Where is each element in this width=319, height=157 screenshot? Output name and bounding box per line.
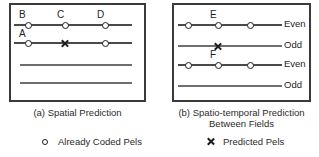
panel-a-coded-pel-right: [102, 40, 109, 47]
panel-a-frame: [9, 3, 146, 102]
panel-b-field-label-3: Even: [284, 59, 306, 69]
figure-root: B C D A E F Even Odd Even Odd (a) Spatia…: [0, 0, 319, 157]
panel-a-coded-pel-a: [25, 40, 32, 47]
panel-b-field-label-4: Odd: [284, 80, 302, 90]
panel-b-scanline-2: [178, 45, 282, 47]
panel-b-scanline-4: [178, 85, 282, 87]
panel-a-coded-pel-b: [25, 22, 32, 29]
panel-a-coded-pel-c: [62, 22, 69, 29]
panel-a-scanline-3: [20, 64, 132, 66]
panel-b-label-f: F: [210, 50, 216, 60]
panel-a-predicted-pel: [60, 39, 69, 48]
panel-a-caption: (a) Spatial Prediction: [9, 107, 146, 118]
cross-marker-icon: [205, 136, 216, 147]
panel-b-coded-pel-e: [215, 22, 222, 29]
panel-a-label-c: C: [57, 10, 64, 20]
legend-already-coded-pels: Already Coded Pels: [40, 136, 142, 147]
legend-already-coded-pels-label: Already Coded Pels: [58, 136, 142, 147]
panel-b-coded-pel-3: [247, 22, 254, 29]
panel-b-field-label-2: Odd: [284, 40, 302, 50]
panel-a-label-a: A: [19, 29, 26, 39]
panel-b-coded-pel-4: [185, 62, 192, 69]
panel-b-coded-pel-6: [247, 62, 254, 69]
panel-b-coded-pel-1: [185, 22, 192, 29]
panel-b-caption: (b) Spatio-temporal Prediction Between F…: [170, 107, 313, 129]
legend-predicted-pels: Predicted Pels: [205, 136, 284, 147]
panel-a-coded-pel-d: [102, 22, 109, 29]
panel-b-field-label-1: Even: [284, 19, 306, 29]
legend-predicted-pels-label: Predicted Pels: [223, 136, 284, 147]
panel-a-label-b: B: [19, 10, 26, 20]
panel-a-label-d: D: [97, 10, 104, 20]
panel-b-coded-pel-f: [215, 62, 222, 69]
panel-a-scanline-4: [20, 82, 132, 84]
panel-b-scanline-3: [178, 64, 282, 66]
panel-b-label-e: E: [210, 10, 217, 20]
panel-b-scanline-1: [178, 24, 282, 26]
circle-marker-icon: [40, 136, 51, 147]
